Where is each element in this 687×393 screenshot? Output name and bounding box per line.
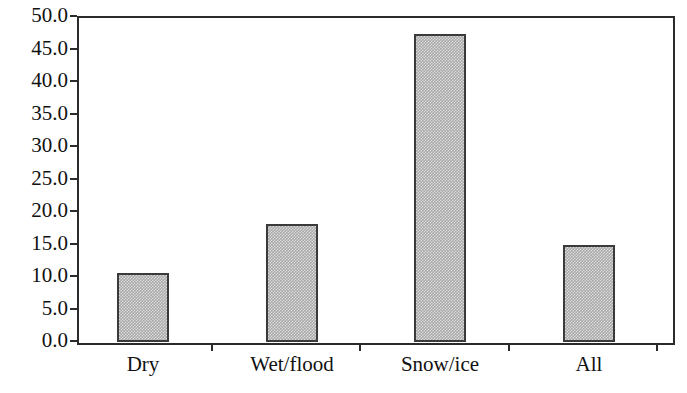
y-axis-tick-label: 35.0	[0, 103, 68, 124]
y-axis-tick-label-text: 45.0	[6, 38, 68, 59]
y-axis-tick-label-text: 0.0	[6, 330, 68, 351]
bar-dry	[117, 273, 169, 342]
bar-all	[563, 245, 615, 342]
bar-wet-flood	[266, 224, 318, 342]
y-axis-tick	[70, 178, 77, 180]
y-axis-tick-label-text: 40.0	[6, 70, 68, 91]
y-axis-tick-label: 20.0	[0, 200, 68, 221]
x-axis-tick	[508, 343, 510, 351]
y-axis-tick-label-text: 15.0	[6, 233, 68, 254]
y-axis-tick	[70, 210, 77, 212]
y-axis-tick-label: 25.0	[0, 168, 68, 189]
y-axis-tick	[70, 340, 77, 342]
y-axis-tick	[70, 48, 77, 50]
y-axis-tick	[70, 15, 77, 17]
x-axis-tick-label: All	[576, 352, 603, 376]
y-axis-tick-label: 45.0	[0, 38, 68, 59]
y-axis-tick-label: 40.0	[0, 70, 68, 91]
y-axis-tick	[70, 308, 77, 310]
y-axis-tick-label-text: 30.0	[6, 135, 68, 156]
bar-snow-ice	[414, 34, 466, 342]
y-axis-tick-label-text: 20.0	[6, 200, 68, 221]
y-axis-tick-label: 5.0	[0, 298, 68, 319]
y-axis-tick	[70, 275, 77, 277]
x-axis-tick-label: Dry	[127, 352, 160, 376]
x-axis-tick-label: Snow/ice	[401, 352, 479, 376]
y-axis-tick-label-text: 5.0	[6, 298, 68, 319]
y-axis-tick	[70, 80, 77, 82]
y-axis-tick-label-text: 10.0	[6, 265, 68, 286]
y-axis-tick	[70, 113, 77, 115]
x-axis-tick	[656, 343, 658, 351]
y-axis-tick	[70, 243, 77, 245]
y-axis-tick-label-text: 35.0	[6, 103, 68, 124]
y-axis-tick-label: 0.0	[0, 330, 68, 351]
x-axis-tick	[211, 343, 213, 351]
y-axis-tick-label-text: 50.0	[6, 5, 68, 26]
bar-chart: 0.05.010.015.020.025.030.035.040.045.050…	[0, 0, 687, 393]
x-axis-tick	[359, 343, 361, 351]
x-axis-tick-label: Wet/flood	[250, 352, 333, 376]
y-axis-tick-label: 15.0	[0, 233, 68, 254]
y-axis-tick-label: 50.0	[0, 5, 68, 26]
y-axis-tick-label-text: 25.0	[6, 168, 68, 189]
y-axis-tick-label: 30.0	[0, 135, 68, 156]
y-axis-tick	[70, 145, 77, 147]
y-axis-tick-label: 10.0	[0, 265, 68, 286]
